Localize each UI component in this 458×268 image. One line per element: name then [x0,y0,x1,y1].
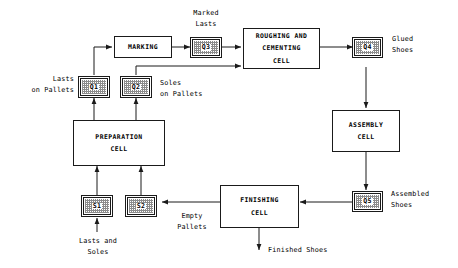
caption-empty-pallets: Empty Pallets [167,211,217,233]
caption-marked-lasts: Marked Lasts [178,8,234,30]
caption-glued-shoes: Glued Shoes [392,34,452,56]
roughing-label-line2: CEMENTING [262,42,301,54]
buffer-q3-label: Q3 [201,44,212,51]
assembly-label-line2: CELL [357,131,374,143]
preparation-label-line1: PREPARATION [95,131,142,143]
preparation-label-line2: CELL [110,143,127,155]
buffer-q1-hatch: Q1 [82,80,106,94]
buffer-q5-hatch: Q5 [356,195,379,208]
caption-lasts-on-pallets: Lasts on Pallets [2,74,74,96]
wire-q1-to-marking [94,47,112,75]
buffer-s1-frame: S1 [83,197,111,215]
buffer-q4-label: Q4 [362,44,373,51]
roughing-label-line3: CELL [273,55,290,67]
buffer-s2-hatch: S2 [129,199,153,213]
buffer-q1-label: Q1 [89,84,100,91]
roughing-label-line1: ROUGHING AND [256,30,308,42]
buffer-s1-label: S1 [92,203,103,210]
buffer-s1[interactable]: S1 [81,195,113,217]
buffer-q1[interactable]: Q1 [78,76,110,98]
flow-diagram: MARKING ROUGHING AND CEMENTING CELL ASSE… [0,0,458,268]
buffer-q4[interactable]: Q4 [352,37,383,58]
process-box-preparation-cell[interactable]: PREPARATION CELL [73,120,165,166]
buffer-q4-frame: Q4 [354,39,381,56]
caption-lasts-and-soles: Lasts and Soles [62,236,134,258]
process-box-finishing-cell[interactable]: FINISHING CELL [220,185,299,228]
buffer-s2[interactable]: S2 [125,195,157,217]
buffer-q2-hatch: Q2 [124,80,148,94]
buffer-s2-label: S2 [136,203,147,210]
buffer-q3[interactable]: Q3 [190,37,222,58]
finishing-label-line2: CELL [251,207,268,219]
buffer-q5[interactable]: Q5 [352,191,383,212]
assembly-label-line1: ASSEMBLY [349,119,383,131]
caption-soles-on-pallets: Soles on Pallets [160,78,238,100]
buffer-q4-hatch: Q4 [356,41,379,54]
process-box-assembly-cell[interactable]: ASSEMBLY CELL [332,110,400,152]
buffer-s2-frame: S2 [127,197,155,215]
caption-finished-shoes: Finished Shoes [268,245,388,256]
process-box-marking[interactable]: MARKING [114,36,172,58]
marking-label: MARKING [128,41,158,53]
buffer-q5-frame: Q5 [354,193,381,210]
buffer-q3-hatch: Q3 [194,41,218,54]
process-box-roughing-cementing-cell[interactable]: ROUGHING AND CEMENTING CELL [243,28,320,69]
buffer-q2[interactable]: Q2 [120,76,152,98]
finishing-label-line1: FINISHING [240,194,279,206]
buffer-q3-frame: Q3 [192,39,220,56]
caption-assembled-shoes: Assembled Shoes [391,189,458,211]
buffer-q2-frame: Q2 [122,78,150,96]
buffer-q5-label: Q5 [362,198,373,205]
buffer-q1-frame: Q1 [80,78,108,96]
buffer-s1-hatch: S1 [85,199,109,213]
buffer-q2-label: Q2 [131,84,142,91]
wire-q2-to-roughing [136,66,241,75]
